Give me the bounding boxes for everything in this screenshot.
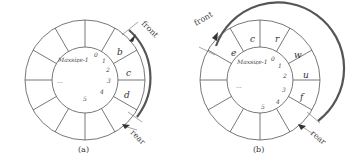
index-1: 1 <box>278 62 282 69</box>
index-3: 3 <box>107 77 111 84</box>
index-5: 5 <box>83 95 87 102</box>
ellipsis: ... <box>57 77 63 84</box>
rear-label: rear <box>309 129 328 147</box>
index-4: 4 <box>99 88 104 95</box>
front-arrow-icon <box>129 34 136 42</box>
index-4: 4 <box>275 98 280 105</box>
index-0: 0 <box>94 51 98 58</box>
index-0: 0 <box>271 55 275 62</box>
front-arrow-icon <box>212 32 218 41</box>
panel-b: e c r w u f Maxsize-1 0 1 2 3 4 5 ... fr… <box>193 2 345 154</box>
front-leader <box>199 47 215 55</box>
cell-dividers <box>25 20 145 140</box>
panel-a: b c d Maxsize-1 0 1 2 3 4 5 ... front re… <box>25 19 161 154</box>
index-2: 2 <box>282 72 287 79</box>
rear-arrow-icon <box>298 124 306 130</box>
cell-d: d <box>124 90 130 100</box>
inner-ring <box>227 47 293 113</box>
caption-b: (b) <box>253 145 264 154</box>
max-index-label: Maxsize-1 <box>236 58 268 65</box>
rear-leader <box>307 112 320 123</box>
caption-a: (a) <box>78 145 89 154</box>
max-index-label: Maxsize-1 <box>57 56 89 63</box>
ellipsis: ... <box>236 82 242 89</box>
front-label: front <box>193 10 215 28</box>
cell-r: r <box>275 34 280 44</box>
cell-f: f <box>299 92 305 102</box>
rear-label: rear <box>129 128 148 147</box>
index-5: 5 <box>261 103 265 110</box>
index-1: 1 <box>102 57 106 64</box>
cell-c: c <box>250 34 255 44</box>
cell-dividers <box>200 20 320 140</box>
index-3: 3 <box>282 86 286 93</box>
cell-b: b <box>117 47 123 57</box>
cell-w: w <box>294 50 302 60</box>
front-label: front <box>140 19 161 40</box>
cell-c: c <box>126 68 131 78</box>
front-leader <box>122 22 138 35</box>
cell-e: e <box>231 48 236 58</box>
cell-u: u <box>303 70 309 80</box>
circular-queue-diagram: b c d Maxsize-1 0 1 2 3 4 5 ... front re… <box>0 0 352 163</box>
index-2: 2 <box>105 66 110 73</box>
